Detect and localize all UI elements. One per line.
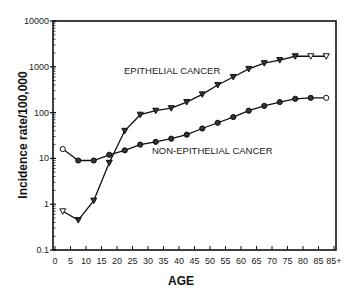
circle-marker-icon [262,103,267,108]
circle-marker-icon [231,114,236,119]
circle-marker-icon [91,158,96,163]
x-tick-label: 15 [96,256,106,266]
x-tick-label: 85 [313,256,323,266]
non-epithelial-annotation: NON-EPITHELIAL CANCER [152,145,273,156]
triangle-marker-icon [215,83,221,89]
x-tick-label: 50 [205,256,215,266]
x-tick-label: 5 [68,256,73,266]
epithelial-series [60,54,330,223]
circle-marker-icon [138,142,143,147]
circle-marker-icon [324,95,329,100]
y-tick-label: 10000 [24,16,49,26]
x-tick-label: 40 [174,256,184,266]
x-tick-label: 35 [158,256,168,266]
x-tick-label: 0 [52,256,57,266]
y-tick-label: 1000 [29,62,49,72]
circle-marker-icon [153,139,158,144]
x-axis-title: AGE [168,274,194,288]
y-tick-label: 10 [39,153,49,163]
y-tick-label: 0.1 [36,245,49,255]
x-tick-label: 85+ [326,256,341,266]
circle-marker-icon [293,96,298,101]
x-tick-label: 70 [267,256,277,266]
circle-marker-icon [184,132,189,137]
triangle-marker-icon [246,66,252,72]
circle-marker-icon [308,95,313,100]
series-layer [60,54,330,223]
triangle-marker-icon [75,218,81,224]
triangle-marker-icon [122,128,128,134]
circle-marker-icon [122,148,127,153]
triangle-marker-icon [230,74,236,80]
y-axis-title: Incidence rate/100,000 [16,71,30,199]
epithelial-annotation: EPITHELIAL CANCER [124,65,220,76]
incidence-line-chart: 0.1110100100010000 051015202530354045505… [0,0,359,295]
triangle-marker-icon [106,160,112,166]
x-tick-label: 65 [251,256,261,266]
circle-marker-icon [277,99,282,104]
x-tick-label: 75 [282,256,292,266]
y-tick-label: 1 [44,199,49,209]
x-tick-label: 80 [298,256,308,266]
x-tick-label: 10 [81,256,91,266]
triangle-marker-icon [199,92,205,98]
circle-marker-icon [76,158,81,163]
x-axis: 051015202530354045505560657075808585+ [52,246,341,266]
x-tick-label: 60 [236,256,246,266]
triangle-marker-icon [60,209,66,215]
circle-marker-icon [169,136,174,141]
x-tick-label: 30 [143,256,153,266]
x-tick-label: 20 [112,256,122,266]
x-tick-label: 55 [220,256,230,266]
circle-marker-icon [60,146,65,151]
x-tick-label: 25 [127,256,137,266]
y-tick-label: 100 [34,108,49,118]
circle-marker-icon [215,120,220,125]
circle-marker-icon [200,126,205,131]
x-tick-label: 45 [189,256,199,266]
circle-marker-icon [107,152,112,157]
circle-marker-icon [246,108,251,113]
